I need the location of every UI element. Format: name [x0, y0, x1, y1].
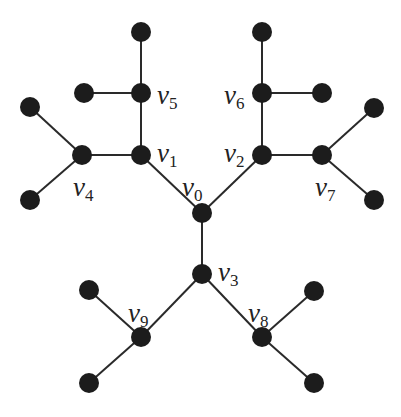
node-v0: [192, 203, 212, 223]
label-v1: v1: [157, 138, 177, 171]
node-l8: [364, 190, 384, 210]
edge-v7-l7: [322, 108, 374, 155]
label-v0: v0: [182, 172, 202, 205]
label-v8: v8: [248, 298, 268, 331]
node-v1: [131, 145, 151, 165]
tree-graph: v0v1v2v3v4v5v6v7v8v9: [0, 0, 401, 417]
node-l9: [79, 280, 99, 300]
label-v7: v7: [315, 172, 336, 205]
tree-diagram: v0v1v2v3v4v5v6v7v8v9: [0, 0, 401, 417]
label-v3: v3: [218, 257, 238, 290]
node-v3: [192, 264, 212, 284]
label-v2: v2: [224, 138, 244, 171]
label-v5: v5: [157, 80, 177, 113]
label-v9: v9: [128, 298, 148, 331]
nodes-layer: [20, 22, 384, 393]
node-v5: [131, 83, 151, 103]
node-l1: [131, 22, 151, 42]
edge-v8-l11: [262, 291, 314, 337]
node-v2: [252, 145, 272, 165]
node-l7: [364, 98, 384, 118]
node-l2: [74, 83, 94, 103]
node-l3: [20, 97, 40, 117]
label-v4: v4: [73, 172, 94, 205]
edge-v3-v9: [141, 274, 202, 337]
node-l5: [252, 22, 272, 42]
node-v4: [72, 145, 92, 165]
edge-v8-l12: [262, 337, 314, 383]
edge-v4-l3: [30, 107, 82, 155]
node-l12: [304, 373, 324, 393]
node-v6: [252, 83, 272, 103]
edge-v9-l10: [89, 337, 141, 383]
node-l4: [20, 190, 40, 210]
node-l11: [304, 281, 324, 301]
label-v6: v6: [224, 80, 244, 113]
node-v7: [312, 145, 332, 165]
node-l6: [312, 83, 332, 103]
node-l10: [79, 373, 99, 393]
